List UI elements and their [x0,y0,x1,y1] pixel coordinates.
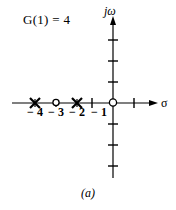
real-axis-tick-label-group: − 4 − 3 − 2 − 1 [22,105,114,121]
tick-label--1: − 1 [91,105,107,120]
tick-label--2: − 2 [69,105,85,120]
gain-annotation: G(1) = 4 [23,12,70,28]
imaginary-axis-label: jω [104,4,116,19]
pole-zero-plot-figure: G(1) = 4 jω σ − 4 − 3 − 2 − 1 (a) [0,0,176,210]
tick-label--4: − 4 [27,105,43,120]
figure-caption: (a) [0,186,176,201]
real-axis-label: σ [161,96,167,111]
real-axis-arrowhead [149,100,158,106]
tick-label--3: − 3 [48,105,64,120]
